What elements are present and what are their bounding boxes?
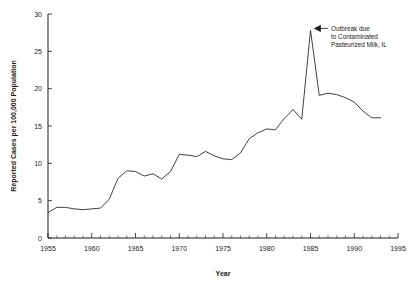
x-tick-label: 1995 bbox=[390, 245, 406, 252]
y-tick-label: 30 bbox=[34, 11, 42, 18]
y-axis-tick-labels: 051015202530 bbox=[34, 11, 42, 242]
x-tick-label: 1980 bbox=[259, 245, 275, 252]
annotation-text-line-3: Pasteurized Milk, IL bbox=[331, 41, 387, 48]
outbreak-annotation: Outbreak due to Contaminated Pasteurized… bbox=[315, 25, 388, 48]
annotation-arrow-head bbox=[315, 25, 321, 31]
x-tick-label: 1985 bbox=[303, 245, 319, 252]
y-tick-label: 5 bbox=[38, 197, 42, 204]
data-series-line bbox=[48, 30, 381, 212]
x-axis-title: Year bbox=[216, 270, 231, 277]
y-tick-label: 25 bbox=[34, 48, 42, 55]
annotation-text-line-1: Outbreak due bbox=[331, 25, 370, 32]
x-tick-label: 1965 bbox=[128, 245, 144, 252]
x-tick-label: 1960 bbox=[84, 245, 100, 252]
line-chart: 051015202530 195519601965197019751980198… bbox=[0, 0, 420, 288]
y-axis-title: Reported Cases per 100,000 Population bbox=[10, 60, 18, 192]
y-tick-label: 15 bbox=[34, 123, 42, 130]
x-tick-label: 1975 bbox=[215, 245, 231, 252]
y-tick-label: 0 bbox=[38, 235, 42, 242]
y-axis-ticks bbox=[48, 14, 52, 238]
y-tick-label: 20 bbox=[34, 85, 42, 92]
y-tick-label: 10 bbox=[34, 160, 42, 167]
x-tick-label: 1970 bbox=[171, 245, 187, 252]
annotation-text-line-2: to Contaminated bbox=[331, 33, 378, 40]
x-axis-tick-labels: 195519601965197019751980198519901995 bbox=[40, 245, 406, 252]
x-tick-label: 1955 bbox=[40, 245, 56, 252]
x-tick-label: 1990 bbox=[346, 245, 362, 252]
chart-figure: 051015202530 195519601965197019751980198… bbox=[0, 0, 420, 288]
